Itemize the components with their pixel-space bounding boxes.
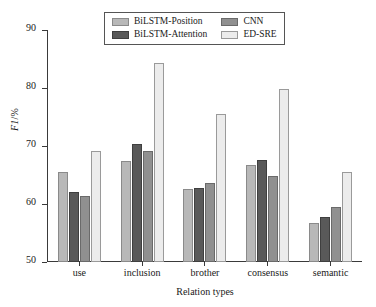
legend-swatch-icon — [112, 31, 129, 39]
bar[interactable] — [331, 207, 341, 262]
bar[interactable] — [183, 189, 193, 262]
legend-item[interactable]: BiLSTM-Position — [112, 16, 207, 27]
legend-item-label: BiLSTM-Attention — [134, 29, 207, 40]
y-axis-tick-mark — [42, 262, 47, 263]
bar[interactable] — [69, 192, 79, 262]
y-axis: 5060708090 — [0, 30, 47, 262]
y-axis-title: F1/% — [9, 108, 20, 131]
bar-group — [236, 30, 299, 262]
y-axis-tick-label: 50 — [26, 255, 36, 265]
x-axis-title: Relation types — [48, 286, 362, 298]
bar[interactable] — [143, 151, 153, 262]
x-axis-tick-mark — [79, 262, 80, 266]
bar-group-bars — [121, 30, 164, 262]
bar-chart-figure: 5060708090 F1/% useinclusionbrotherconse… — [0, 0, 376, 307]
x-axis-tick-label: consensus — [236, 267, 299, 279]
bar-group — [111, 30, 174, 262]
y-axis-title-unit: /% — [9, 108, 20, 120]
bar[interactable] — [58, 172, 68, 262]
legend: BiLSTM-PositionCNNBiLSTM-AttentionED-SRE — [104, 12, 285, 45]
bar[interactable] — [91, 151, 101, 262]
legend-swatch-icon — [221, 31, 238, 39]
bar-group — [48, 30, 111, 262]
y-axis-tick-label: 80 — [26, 81, 36, 91]
bar[interactable] — [246, 165, 256, 262]
bar[interactable] — [80, 196, 90, 262]
legend-item[interactable]: BiLSTM-Attention — [112, 29, 207, 40]
legend-item[interactable]: ED-SRE — [221, 29, 276, 40]
legend-item-label: ED-SRE — [243, 29, 276, 40]
bar[interactable] — [121, 161, 131, 263]
x-axis-tick-mark — [204, 262, 205, 266]
bar-group-bars — [246, 30, 289, 262]
legend-item-label: CNN — [243, 16, 263, 27]
bar-group — [174, 30, 237, 262]
bar-group-bars — [58, 30, 101, 262]
y-axis-title-italic: F1 — [9, 119, 20, 131]
legend-swatch-icon — [221, 18, 238, 26]
x-axis-tick-mark — [142, 262, 143, 266]
x-axis-tick-mark — [267, 262, 268, 266]
legend-item[interactable]: CNN — [221, 16, 276, 27]
y-axis-tick-label: 60 — [26, 197, 36, 207]
x-axis-tick-label: inclusion — [111, 267, 174, 279]
bar[interactable] — [279, 89, 289, 262]
x-axis-tick-label: semantic — [299, 267, 362, 279]
y-axis-tick-label: 70 — [26, 139, 36, 149]
bar[interactable] — [132, 144, 142, 262]
x-axis-tick-mark — [330, 262, 331, 266]
bar[interactable] — [154, 63, 164, 262]
x-axis-tick-label: use — [48, 267, 111, 279]
bar-groups — [48, 30, 362, 262]
bar[interactable] — [205, 183, 215, 262]
legend-swatch-icon — [112, 18, 129, 26]
x-axis-tick-labels: useinclusionbrotherconsensussemantic — [48, 267, 362, 279]
legend-grid: BiLSTM-PositionCNNBiLSTM-AttentionED-SRE — [112, 16, 277, 40]
bar[interactable] — [320, 217, 330, 262]
bar[interactable] — [342, 172, 352, 262]
bar-group-bars — [309, 30, 352, 262]
bar[interactable] — [309, 223, 319, 262]
bar[interactable] — [216, 114, 226, 262]
bar-group — [299, 30, 362, 262]
x-axis-tick-label: brother — [174, 267, 237, 279]
y-axis-tick-label: 90 — [26, 23, 36, 33]
bar[interactable] — [268, 176, 278, 262]
bar[interactable] — [194, 188, 204, 262]
bar-group-bars — [183, 30, 226, 262]
legend-item-label: BiLSTM-Position — [134, 16, 203, 27]
bar[interactable] — [257, 160, 267, 262]
